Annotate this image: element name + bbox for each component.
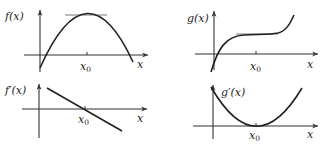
f-prime-label: f′(x) [4, 84, 26, 97]
x-label: x [137, 112, 144, 125]
derivative-diagram: f(x) x0 x g(x) x0 x f′(x) x0 x g′(x) x0 … [0, 0, 326, 147]
panel-g-prime: g′(x) x0 x [193, 85, 318, 143]
g-prime-label: g′(x) [221, 86, 245, 99]
panel-f: f(x) x0 x [4, 10, 148, 74]
x0-label: x0 [249, 129, 260, 143]
x0-label: x0 [80, 60, 91, 74]
x-label: x [307, 128, 314, 141]
g-label: g(x) [187, 12, 209, 25]
panel-g: g(x) x0 x [187, 11, 318, 74]
x-label: x [307, 58, 314, 71]
x0-label: x0 [78, 113, 89, 127]
x-label: x [137, 58, 144, 71]
f-curve [40, 13, 133, 68]
f-label: f(x) [4, 10, 24, 23]
x0-label: x0 [250, 60, 261, 74]
panel-f-prime: f′(x) x0 x [4, 84, 147, 138]
